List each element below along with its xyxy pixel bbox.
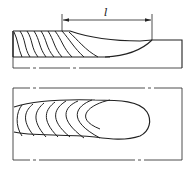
section-view bbox=[13, 14, 182, 68]
weld-ripples-plan bbox=[17, 100, 110, 138]
plan-view bbox=[13, 88, 182, 160]
dimension-label: l bbox=[104, 6, 108, 19]
weld-diagram: l bbox=[0, 0, 193, 180]
